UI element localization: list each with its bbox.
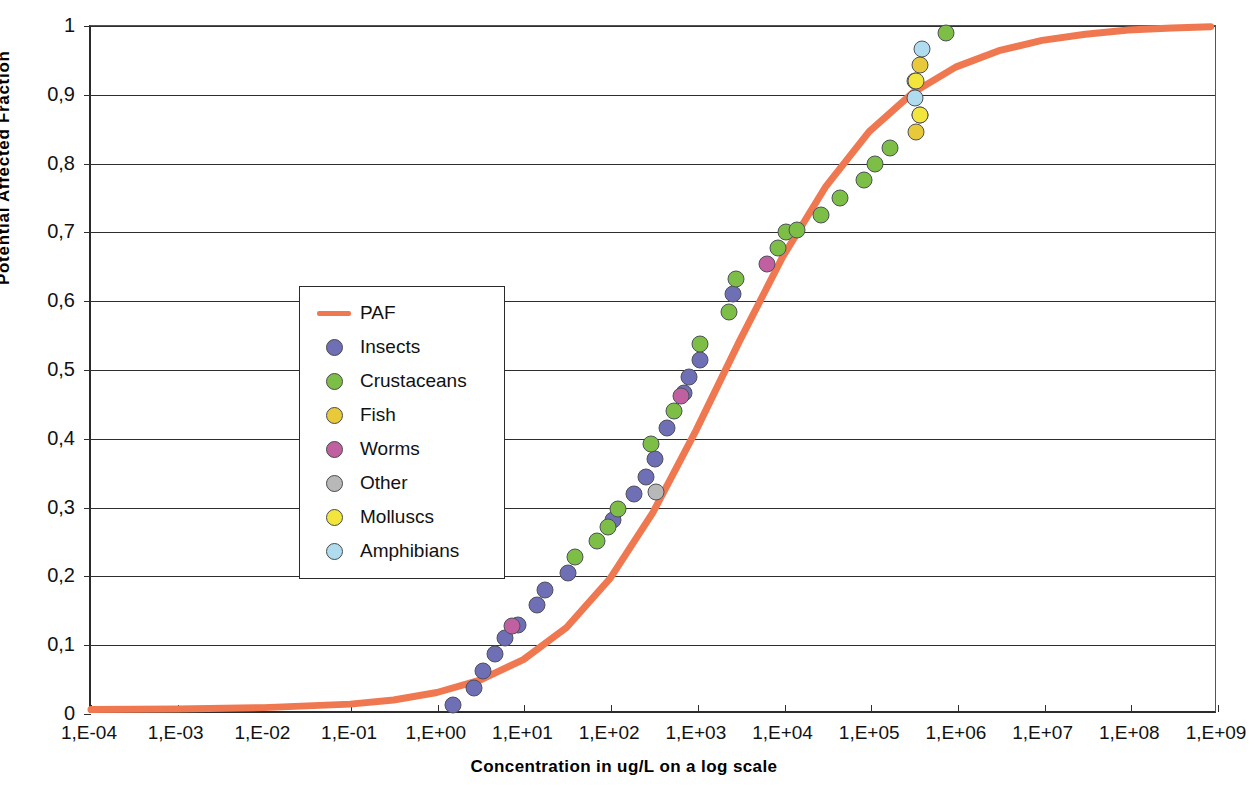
y-tick — [84, 576, 91, 577]
data-point-insects — [528, 597, 545, 614]
data-point-insects — [486, 646, 503, 663]
legend-item-label: Molluscs — [351, 506, 434, 528]
data-point-crustaceans — [599, 518, 616, 535]
data-point-crustaceans — [589, 533, 606, 550]
data-point-crustaceans — [721, 303, 738, 320]
y-tick-label: 0,8 — [5, 151, 75, 174]
legend-item-label: Other — [351, 472, 408, 494]
data-point-crustaceans — [691, 335, 708, 352]
x-tick-label: 1,E+05 — [839, 722, 900, 744]
y-tick — [84, 164, 91, 165]
x-tick — [698, 705, 699, 712]
legend-item-amphibians[interactable]: Amphibians — [300, 534, 504, 568]
data-point-insects — [559, 564, 576, 581]
gridline — [91, 95, 1215, 96]
data-point-crustaceans — [866, 155, 883, 172]
data-point-crustaceans — [727, 271, 744, 288]
legend-dot-icon — [317, 509, 351, 526]
legend-dot-icon — [317, 339, 351, 356]
y-tick — [84, 714, 91, 715]
legend-item-label: Crustaceans — [351, 370, 467, 392]
y-tick — [84, 439, 91, 440]
gridline — [91, 164, 1215, 165]
y-tick-label: 0,2 — [5, 564, 75, 587]
legend-dot-icon — [317, 373, 351, 390]
legend-item-label: PAF — [351, 302, 396, 324]
y-tick-label: 0,9 — [5, 82, 75, 105]
data-point-insects — [658, 419, 675, 436]
chart-root: 00,10,20,30,40,50,60,70,80,91 Potential … — [0, 0, 1249, 787]
y-tick-label: 0,7 — [5, 220, 75, 243]
x-tick — [958, 705, 959, 712]
legend-dot-icon — [317, 475, 351, 492]
paf-curve — [91, 26, 1215, 711]
data-point-crustaceans — [832, 190, 849, 207]
x-tick-label: 1,E+03 — [665, 722, 726, 744]
legend-item-label: Amphibians — [351, 540, 459, 562]
y-tick — [84, 26, 91, 27]
data-point-crustaceans — [937, 24, 954, 41]
legend-dot-icon — [317, 543, 351, 560]
paf-curve-path — [91, 27, 1211, 710]
data-point-crustaceans — [882, 140, 899, 157]
x-tick — [1131, 705, 1132, 712]
data-point-molluscs — [911, 107, 928, 124]
legend-item-other[interactable]: Other — [300, 466, 504, 500]
x-axis-title: Concentration in ug/L on a log scale — [471, 757, 778, 777]
x-tick-label: 1,E-03 — [148, 722, 204, 744]
data-point-crustaceans — [856, 172, 873, 189]
data-point-crustaceans — [788, 222, 805, 239]
gridline — [91, 232, 1215, 233]
legend-dot-icon — [317, 407, 351, 424]
x-tick-label: 1,E+06 — [926, 722, 987, 744]
data-point-insects — [625, 485, 642, 502]
chart-legend: PAFInsectsCrustaceansFishWormsOtherMollu… — [299, 286, 505, 579]
y-tick — [84, 645, 91, 646]
gridline — [91, 645, 1215, 646]
legend-dot-swatch — [326, 407, 343, 424]
legend-line-icon — [317, 311, 351, 316]
plot-area: PAFInsectsCrustaceansFishWormsOtherMollu… — [89, 25, 1216, 713]
legend-item-insects[interactable]: Insects — [300, 330, 504, 364]
legend-item-label: Insects — [351, 336, 420, 358]
y-tick-label: 0,5 — [5, 358, 75, 381]
data-point-crustaceans — [566, 549, 583, 566]
x-tick-label: 1,E+09 — [1186, 722, 1247, 744]
x-tick-label: 1,E+07 — [1012, 722, 1073, 744]
x-tick-label: 1,E+01 — [492, 722, 553, 744]
data-point-crustaceans — [665, 403, 682, 420]
legend-dot-swatch — [326, 475, 343, 492]
x-tick — [438, 705, 439, 712]
data-point-worms — [672, 388, 689, 405]
y-tick-label: 0,3 — [5, 495, 75, 518]
legend-item-label: Fish — [351, 404, 396, 426]
y-tick — [84, 95, 91, 96]
data-point-insects — [537, 582, 554, 599]
legend-item-molluscs[interactable]: Molluscs — [300, 500, 504, 534]
y-tick — [84, 301, 91, 302]
legend-item-paf[interactable]: PAF — [300, 296, 504, 330]
x-tick — [785, 705, 786, 712]
gridline — [91, 26, 1215, 27]
x-tick — [871, 705, 872, 712]
x-tick-label: 1,E+00 — [405, 722, 466, 744]
x-tick-label: 1,E-04 — [61, 722, 117, 744]
gridline — [91, 576, 1215, 577]
legend-item-fish[interactable]: Fish — [300, 398, 504, 432]
legend-item-crustaceans[interactable]: Crustaceans — [300, 364, 504, 398]
legend-item-worms[interactable]: Worms — [300, 432, 504, 466]
data-point-amphibians — [906, 90, 923, 107]
x-tick — [351, 705, 352, 712]
y-tick-label: 0,4 — [5, 426, 75, 449]
data-point-crustaceans — [769, 239, 786, 256]
data-point-insects — [466, 679, 483, 696]
legend-dot-swatch — [326, 509, 343, 526]
legend-dot-icon — [317, 441, 351, 458]
y-tick — [84, 508, 91, 509]
data-point-insects — [637, 468, 654, 485]
x-tick-label: 1,E+04 — [752, 722, 813, 744]
data-point-other — [648, 484, 665, 501]
data-point-amphibians — [913, 41, 930, 58]
x-tick — [178, 705, 179, 712]
y-tick — [84, 370, 91, 371]
